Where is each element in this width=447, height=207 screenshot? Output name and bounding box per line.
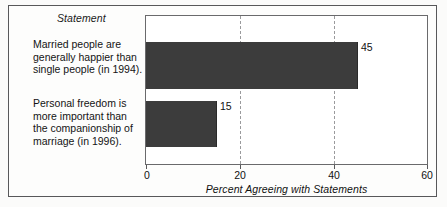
tick-label-40: 40	[328, 169, 340, 181]
category-label-line: Married people are	[33, 38, 141, 51]
category-label-freedom: Personal freedom is more important than …	[33, 97, 141, 147]
x-axis-title: Percent Agreeing with Statements	[145, 183, 428, 195]
category-label-line: Personal freedom is	[33, 97, 141, 110]
bar-freedom	[146, 101, 217, 147]
tick-label-20: 20	[234, 169, 246, 181]
tick-label-0: 0	[144, 169, 150, 181]
bar-value-married: 45	[361, 41, 373, 53]
statement-column-header: Statement	[57, 12, 106, 24]
category-label-line: the companionship of	[33, 122, 141, 135]
plot-area	[145, 15, 428, 165]
bar-married	[146, 42, 358, 89]
tick-label-60: 60	[421, 169, 433, 181]
category-label-line: single people (in 1994).	[33, 63, 141, 76]
gridline-20	[240, 16, 241, 164]
bar-chart-figure: Statement Married people are generally h…	[0, 0, 447, 207]
category-label-line: generally happier than	[33, 51, 141, 64]
gridline-40	[334, 16, 335, 164]
category-label-line: more important than	[33, 110, 141, 123]
category-label-line: marriage (in 1996).	[33, 135, 141, 148]
category-label-married: Married people are generally happier tha…	[33, 38, 141, 76]
bar-value-freedom: 15	[220, 100, 232, 112]
